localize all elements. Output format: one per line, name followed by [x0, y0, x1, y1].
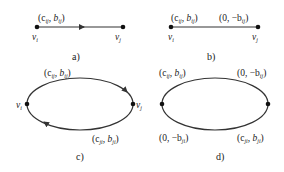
- node-label-vi: vi: [32, 32, 38, 43]
- node-vi: [160, 102, 165, 107]
- panel-b: (cij, bij) (0, −bij) vi vj b): [168, 13, 260, 63]
- edge-loop: [27, 78, 133, 130]
- node-vj: [256, 25, 261, 30]
- panel-c: (cij, bij) (cji, bji) vi vj c): [16, 68, 142, 163]
- node-label-vj: vj: [136, 100, 142, 111]
- edge-loop: [162, 78, 268, 130]
- node-vi: [169, 25, 174, 30]
- node-label-vi: vi: [16, 100, 22, 111]
- arrow-icon: [124, 89, 127, 92]
- panel-a: (cij, bij) vi vj a): [32, 13, 125, 63]
- edge-label-ij: (cij, bij): [44, 68, 71, 79]
- node-label-vj: vj: [115, 32, 121, 43]
- node-vj: [266, 102, 271, 107]
- caption-b: b): [207, 51, 215, 63]
- node-label-vi: vi: [168, 32, 174, 43]
- caption-d: d): [216, 151, 224, 163]
- node-vj: [131, 102, 136, 107]
- caption-a: a): [72, 51, 80, 63]
- edge-label-reverse: (0, −bij): [219, 13, 248, 24]
- edge-label-ji-reverse: (0, −bji): [159, 133, 188, 144]
- edge-label-ji: (cji, bji): [92, 134, 119, 145]
- caption-c: c): [76, 151, 84, 163]
- node-vj: [121, 25, 126, 30]
- node-vi: [25, 102, 30, 107]
- edge-label: (cij, bij): [38, 13, 65, 24]
- edge-label-ji: (cji, bji): [237, 133, 264, 144]
- node-label-vj: vj: [252, 32, 258, 43]
- panel-d: (cij, bij) (0, −bij) (0, −bji) (cji, bji…: [159, 68, 270, 163]
- edge-label-ij: (cij, bij): [159, 68, 186, 79]
- edge-label-ij-reverse: (0, −bij): [237, 68, 266, 79]
- node-vi: [35, 25, 40, 30]
- edge-label-ij: (cij, bij): [171, 13, 198, 24]
- diagram-canvas: (cij, bij) vi vj a) (cij, bij) (0, −bij)…: [0, 0, 284, 172]
